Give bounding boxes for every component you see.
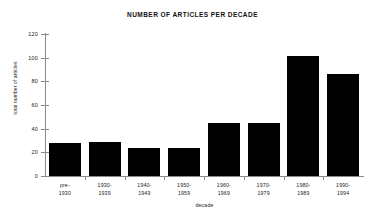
x-axis-tick-label-line: 1970- [244, 182, 284, 190]
plot-area [45, 34, 363, 176]
x-axis-tick-label-line: 1990- [323, 182, 363, 190]
y-axis-tick-label: 20 [16, 149, 38, 155]
x-axis-tick [244, 176, 245, 180]
x-axis-tick-label: 1950-1959 [164, 182, 204, 197]
y-axis-tick-label-wrap: 60 [14, 105, 38, 106]
y-axis-tick-label: 100 [16, 55, 38, 61]
x-axis-tick-label-line: 1930 [45, 190, 85, 198]
bar [287, 56, 319, 176]
x-axis-tick-label: pre-1930 [45, 182, 85, 197]
x-axis-tick-label: 1940-1949 [125, 182, 165, 197]
bar [208, 123, 240, 176]
x-axis-tick-label-line: pre- [45, 182, 85, 190]
x-axis-tick [204, 176, 205, 180]
x-axis-tick-label: 1930-1939 [85, 182, 125, 197]
x-axis-tick-label: 1970-1979 [244, 182, 284, 197]
x-axis-tick-label: 1960-1969 [204, 182, 244, 197]
bar [128, 148, 160, 176]
y-axis-tick-label: 0 [16, 173, 38, 179]
y-axis-tick-label: 40 [16, 126, 38, 132]
x-axis-tick-label-line: 1959 [164, 190, 204, 198]
x-axis-tick-label: 1980-1989 [284, 182, 324, 197]
x-axis-tick-label-line: 1969 [204, 190, 244, 198]
chart-title: NUMBER OF ARTICLES PER DECADE [0, 11, 385, 18]
bar [49, 143, 81, 176]
y-axis-tick-label-wrap: 40 [14, 129, 38, 130]
y-axis-tick-label: 80 [16, 78, 38, 84]
y-axis-tick [41, 176, 49, 177]
y-axis-tick-label: 60 [16, 102, 38, 108]
x-axis-tick-label-line: 1979 [244, 190, 284, 198]
bar [168, 148, 200, 176]
x-axis-tick-label: 1990-1994 [323, 182, 363, 197]
x-axis-tick [85, 176, 86, 180]
x-axis-tick [125, 176, 126, 180]
y-axis-tick-label-wrap: 80 [14, 81, 38, 82]
x-axis-tick-label-line: 1960- [204, 182, 244, 190]
x-axis-tick [323, 176, 324, 180]
x-axis-tick-label-line: 1980- [284, 182, 324, 190]
x-axis-tick-label-line: 1949 [125, 190, 165, 198]
y-axis-tick-label-wrap: 120 [14, 34, 38, 35]
x-axis-tick-label-line: 1939 [85, 190, 125, 198]
bar [89, 142, 121, 176]
bar [248, 123, 280, 176]
y-axis-tick-label-wrap: 0 [14, 176, 38, 177]
x-axis-tick-label-line: 1940- [125, 182, 165, 190]
x-axis-tick [164, 176, 165, 180]
x-axis-title: decade [45, 202, 364, 208]
x-axis-tick-label-line: 1989 [284, 190, 324, 198]
x-axis-tick-label-line: 1994 [323, 190, 363, 198]
bar [327, 74, 359, 176]
x-axis-tick-label-line: 1950- [164, 182, 204, 190]
y-axis-tick-label-wrap: 20 [14, 152, 38, 153]
x-axis-tick [284, 176, 285, 180]
y-axis-tick-label: 120 [16, 31, 38, 37]
y-axis-tick-label-wrap: 100 [14, 58, 38, 59]
bar-chart-figure: NUMBER OF ARTICLES PER DECADE total numb… [0, 0, 385, 223]
x-axis-tick-label-line: 1930- [85, 182, 125, 190]
